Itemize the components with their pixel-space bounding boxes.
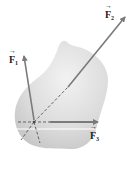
label-f1: F1 <box>9 55 18 66</box>
subscript-f3: 3 <box>96 136 99 142</box>
label-f2: F2 <box>105 10 114 21</box>
concurrency-point <box>33 121 36 124</box>
subscript-f1: 1 <box>15 60 18 66</box>
vector-symbol-f2: F <box>105 10 111 20</box>
subscript-f2: 2 <box>111 15 114 21</box>
label-f3: F3 <box>90 131 99 142</box>
force-diagram <box>0 0 135 179</box>
vector-symbol-f1: F <box>9 55 15 65</box>
vector-symbol-f3: F <box>90 131 96 141</box>
